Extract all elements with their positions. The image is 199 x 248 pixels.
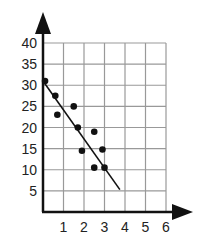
data-point xyxy=(42,78,49,85)
x-axis-arrow-icon xyxy=(172,204,193,220)
data-points xyxy=(42,78,108,171)
data-point xyxy=(101,164,108,171)
x-tick-label: 4 xyxy=(121,219,129,235)
data-point xyxy=(54,112,61,119)
data-point xyxy=(99,146,106,153)
x-tick-label: 5 xyxy=(142,219,150,235)
x-tick-labels: 123456 xyxy=(60,219,171,235)
y-tick-label: 15 xyxy=(21,141,37,157)
y-tick-label: 20 xyxy=(21,120,37,136)
data-point xyxy=(91,164,98,171)
y-tick-labels: 510152025303540 xyxy=(21,35,37,199)
y-axis-arrow-icon xyxy=(35,12,51,34)
data-point xyxy=(79,147,86,154)
scatter-chart: 510152025303540 123456 xyxy=(0,0,199,248)
data-point xyxy=(91,128,98,135)
x-tick-label: 2 xyxy=(80,219,88,235)
x-tick-label: 1 xyxy=(60,219,68,235)
data-point xyxy=(52,93,59,100)
y-tick-label: 35 xyxy=(21,56,37,72)
y-tick-label: 25 xyxy=(21,98,37,114)
x-tick-label: 3 xyxy=(101,219,109,235)
x-tick-label: 6 xyxy=(162,219,170,235)
data-point xyxy=(70,103,77,110)
y-tick-label: 10 xyxy=(21,162,37,178)
grid xyxy=(43,43,166,212)
y-tick-label: 5 xyxy=(29,183,37,199)
y-tick-label: 30 xyxy=(21,77,37,93)
data-point xyxy=(75,124,82,131)
y-tick-label: 40 xyxy=(21,35,37,51)
